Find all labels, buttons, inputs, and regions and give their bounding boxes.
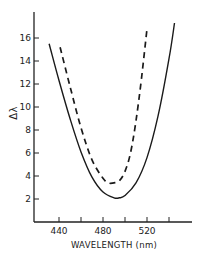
x-axis-title: WAVELENGTH (nm)	[71, 240, 157, 250]
x-tick-label: 520	[138, 226, 155, 236]
x-ticks: 440480520	[50, 217, 169, 236]
series	[49, 23, 174, 198]
dashed-curve	[60, 29, 147, 184]
y-tick-label: 6	[25, 148, 31, 158]
x-tick-label: 440	[50, 226, 67, 236]
y-tick-label: 14	[20, 56, 32, 66]
y-ticks: 246810121416	[20, 33, 39, 204]
y-tick-label: 12	[20, 79, 31, 89]
y-tick-label: 4	[25, 171, 31, 181]
y-tick-label: 2	[25, 194, 31, 204]
y-tick-label: 8	[25, 125, 31, 135]
chart: 246810121416 440480520 WAVELENGTH (nm) Δ…	[0, 0, 200, 255]
axes	[34, 12, 192, 222]
y-tick-label: 10	[20, 102, 32, 112]
solid-curve	[49, 23, 174, 198]
y-tick-label: 16	[20, 33, 32, 43]
y-axis-title: Δλ	[8, 106, 19, 119]
x-tick-label: 480	[94, 226, 111, 236]
